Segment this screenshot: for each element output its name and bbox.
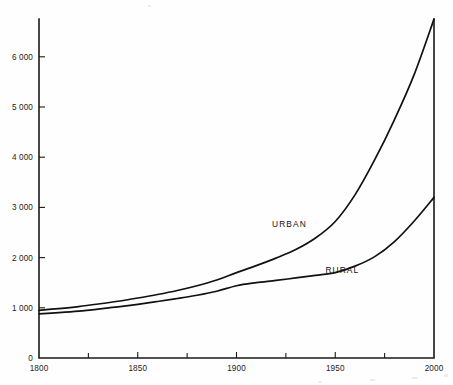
x-axis-tick-label: 1950 [326,364,345,373]
chart-series-annotations: URBANRURAL [272,219,359,275]
y-axis-tick-label: 3 000 [12,203,33,212]
urban-series-label: URBAN [272,219,307,229]
chart-tick-marks [39,57,385,358]
x-axis-tick-label: 1900 [227,364,246,373]
chart-series-lines [39,19,434,314]
chart-axes [39,19,434,358]
x-axis-tick-label: 2000 [425,364,444,373]
y-axis-tick-label: 4 000 [12,153,33,162]
x-axis-tick-labels: 18001850190019502000 [30,364,444,373]
x-axis-tick-label: 1800 [30,364,49,373]
y-axis-tick-labels: 01 0002 0003 0004 0005 0006 000 [12,53,33,363]
population-growth-chart-figure: 01 0002 0003 0004 0005 0006 000 18001850… [0,0,453,385]
urban-rural-population-line-chart: 01 0002 0003 0004 0005 0006 000 18001850… [0,0,453,385]
y-axis-tick-label: 5 000 [12,103,33,112]
y-axis-tick-label: 1 000 [12,304,33,313]
y-axis-tick-label: 6 000 [12,53,33,62]
series-line-rural [39,197,434,313]
y-axis-tick-label: 2 000 [12,254,33,263]
rural-series-label: RURAL [325,265,359,275]
x-axis-tick-label: 1850 [128,364,147,373]
y-axis-tick-label: 0 [28,354,33,363]
series-line-urban [39,19,434,310]
axis-frame [39,19,434,358]
